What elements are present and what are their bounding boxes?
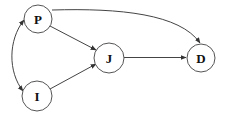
causal-diagram: P I J D — [0, 0, 229, 119]
node-i: I — [22, 81, 52, 111]
edge-p-to-j — [50, 26, 96, 50]
node-d: D — [187, 44, 215, 72]
node-j: J — [94, 43, 124, 73]
node-i-label: I — [34, 89, 39, 104]
node-j-label: J — [106, 51, 113, 66]
node-p: P — [24, 5, 52, 33]
node-p-label: P — [34, 12, 42, 27]
node-d-label: D — [196, 51, 205, 66]
edge-p-i-bidirectional — [12, 20, 24, 91]
edge-p-to-d-curved — [52, 10, 200, 43]
edge-i-to-j — [50, 64, 96, 89]
